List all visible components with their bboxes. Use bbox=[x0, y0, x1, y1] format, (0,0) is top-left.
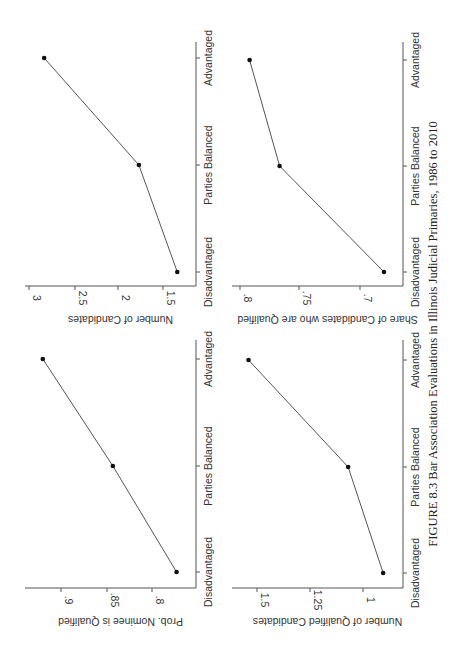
category-tick-label: Advantaged bbox=[409, 332, 421, 388]
category-tick-label: Advantaged bbox=[409, 32, 421, 88]
value-axis-title: Share of Candidates who are Qualified bbox=[237, 314, 418, 326]
value-tick-label: .85 bbox=[109, 593, 121, 608]
category-tick-label: Disadvantaged bbox=[202, 237, 214, 307]
data-point bbox=[175, 270, 180, 275]
data-point bbox=[41, 357, 46, 362]
panel-prob-nominee-qualified: DisadvantagedParties BalancedAdvantaged.… bbox=[25, 331, 214, 628]
series-line bbox=[249, 360, 384, 573]
value-tick-label: 1.5 bbox=[259, 593, 271, 608]
value-axis-title: Prob. Nominee is Qualified bbox=[58, 616, 183, 628]
value-tick-label: .8 bbox=[242, 294, 254, 303]
category-tick-label: Advantaged bbox=[202, 30, 214, 86]
category-tick-label: Parties Balanced bbox=[202, 426, 214, 506]
category-tick-label: Disadvantaged bbox=[202, 537, 214, 607]
series-line bbox=[43, 359, 177, 572]
value-tick-label: 1.25 bbox=[312, 590, 324, 611]
data-point bbox=[246, 358, 251, 363]
panel-share-candidates-qualified: DisadvantagedParties BalancedAdvantaged.… bbox=[232, 32, 421, 326]
data-point bbox=[137, 163, 142, 168]
panel-number-qualified-candidates: DisadvantagedParties BalancedAdvantaged1… bbox=[232, 332, 421, 628]
figure-caption: FIGURE 8.3 Bar Association Evaluations i… bbox=[426, 121, 440, 546]
panel-number-of-candidates: DisadvantagedParties BalancedAdvantaged1… bbox=[25, 30, 214, 326]
value-axis-title: Number of Qualified Candidates bbox=[253, 616, 402, 628]
category-tick-label: Parties Balanced bbox=[202, 125, 214, 205]
data-point bbox=[381, 571, 386, 576]
value-tick-label: 1 bbox=[365, 597, 377, 603]
figure-8-3: DisadvantagedParties BalancedAdvantaged1… bbox=[0, 0, 460, 668]
category-tick-label: Advantaged bbox=[202, 331, 214, 387]
value-tick-label: 1.5 bbox=[165, 291, 177, 306]
data-point bbox=[42, 56, 47, 61]
category-tick-label: Parties Balanced bbox=[409, 427, 421, 507]
series-line bbox=[250, 60, 384, 272]
data-point bbox=[174, 570, 179, 575]
data-point bbox=[111, 464, 116, 469]
value-tick-label: .7 bbox=[362, 294, 374, 303]
category-tick-label: Disadvantaged bbox=[409, 538, 421, 608]
value-tick-label: 3 bbox=[31, 295, 43, 301]
data-point bbox=[247, 58, 252, 63]
value-tick-label: .9 bbox=[63, 596, 75, 605]
data-point bbox=[277, 164, 282, 169]
data-point bbox=[346, 465, 351, 470]
value-tick-label: 2.5 bbox=[77, 291, 89, 306]
value-axis-title: Number of Candidates bbox=[68, 314, 173, 326]
category-tick-label: Disadvantaged bbox=[409, 237, 421, 307]
value-tick-label: .75 bbox=[301, 291, 313, 306]
value-tick-label: .8 bbox=[154, 596, 166, 605]
data-point bbox=[382, 270, 387, 275]
value-tick-label: 2 bbox=[120, 295, 132, 301]
category-tick-label: Parties Balanced bbox=[409, 126, 421, 206]
series-line bbox=[44, 58, 177, 272]
